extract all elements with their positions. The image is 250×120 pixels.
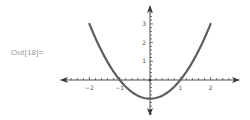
y-tick-label: 3	[142, 20, 146, 27]
x-tick-label: 2	[209, 84, 213, 91]
y-tick-labels: 123	[142, 20, 146, 64]
x-tick-labels: −2−112	[85, 84, 213, 91]
y-tick-label: 2	[142, 39, 146, 46]
x-tick-label: −2	[85, 84, 94, 91]
parabola-plot: −2−112 123	[0, 0, 250, 120]
x-tick-label: 1	[178, 84, 182, 91]
y-tick-label: 1	[142, 57, 146, 64]
